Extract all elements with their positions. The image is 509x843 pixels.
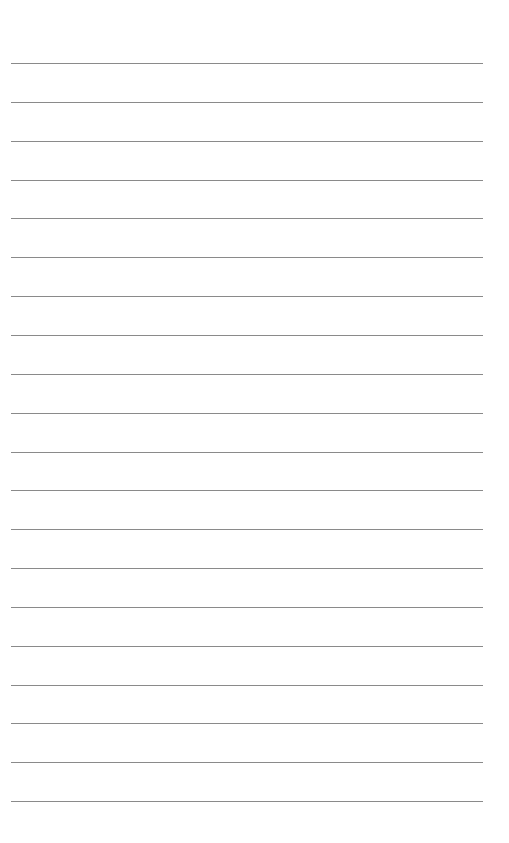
ruled-line xyxy=(11,723,483,724)
ruled-line xyxy=(11,218,483,219)
ruled-line xyxy=(11,801,483,802)
ruled-line xyxy=(11,529,483,530)
ruled-line xyxy=(11,335,483,336)
ruled-line xyxy=(11,762,483,763)
ruled-line xyxy=(11,141,483,142)
lined-paper-page xyxy=(0,0,509,843)
ruled-line xyxy=(11,568,483,569)
ruled-line xyxy=(11,646,483,647)
ruled-line xyxy=(11,102,483,103)
ruled-line xyxy=(11,607,483,608)
ruled-line xyxy=(11,490,483,491)
ruled-line xyxy=(11,257,483,258)
ruled-line xyxy=(11,374,483,375)
ruled-line xyxy=(11,685,483,686)
ruled-line xyxy=(11,452,483,453)
ruled-line xyxy=(11,180,483,181)
ruled-line xyxy=(11,413,483,414)
ruled-line xyxy=(11,296,483,297)
ruled-line xyxy=(11,63,483,64)
